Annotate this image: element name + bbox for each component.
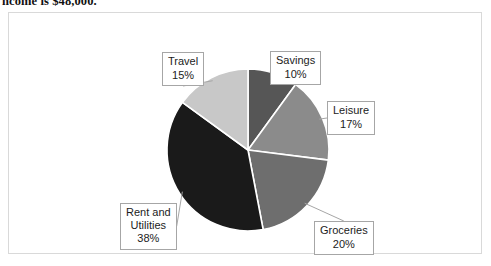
pie-label-rent-and-utilities-name-2: Utilities xyxy=(126,219,171,232)
pie-chart-plot-area: Travel 15% Savings 10% Leisure 17% Groce… xyxy=(9,13,483,255)
pie-label-leisure-name: Leisure xyxy=(333,104,369,118)
pie-label-savings-name: Savings xyxy=(276,54,315,68)
pie-label-travel-value: 15% xyxy=(168,69,198,83)
pie-label-leisure-value: 17% xyxy=(333,118,369,132)
pie-label-groceries-value: 20% xyxy=(320,238,368,252)
pie-label-travel: Travel 15% xyxy=(162,52,204,86)
caption-strip: ncome is $48,000. xyxy=(0,0,491,11)
pie-leader-line-rent-and-utilities xyxy=(177,192,183,227)
pie-label-leisure: Leisure 17% xyxy=(327,101,375,135)
pie-chart-svg xyxy=(9,13,483,255)
chart-figure-frame: Travel 15% Savings 10% Leisure 17% Groce… xyxy=(8,12,482,254)
pie-slice-group xyxy=(167,69,329,231)
pie-label-travel-name: Travel xyxy=(168,55,198,69)
pie-label-groceries-name: Groceries xyxy=(320,224,368,238)
pie-label-savings: Savings 10% xyxy=(270,51,321,85)
pie-leader-line-groceries xyxy=(305,203,344,221)
pie-label-groceries: Groceries 20% xyxy=(314,221,374,255)
caption-text: ncome is $48,000. xyxy=(2,0,97,9)
pie-label-rent-and-utilities-value: 38% xyxy=(126,232,171,246)
pie-label-rent-and-utilities-name-1: Rent and xyxy=(126,206,171,219)
pie-label-rent-and-utilities: Rent and Utilities 38% xyxy=(120,203,177,250)
pie-label-savings-value: 10% xyxy=(276,68,315,82)
